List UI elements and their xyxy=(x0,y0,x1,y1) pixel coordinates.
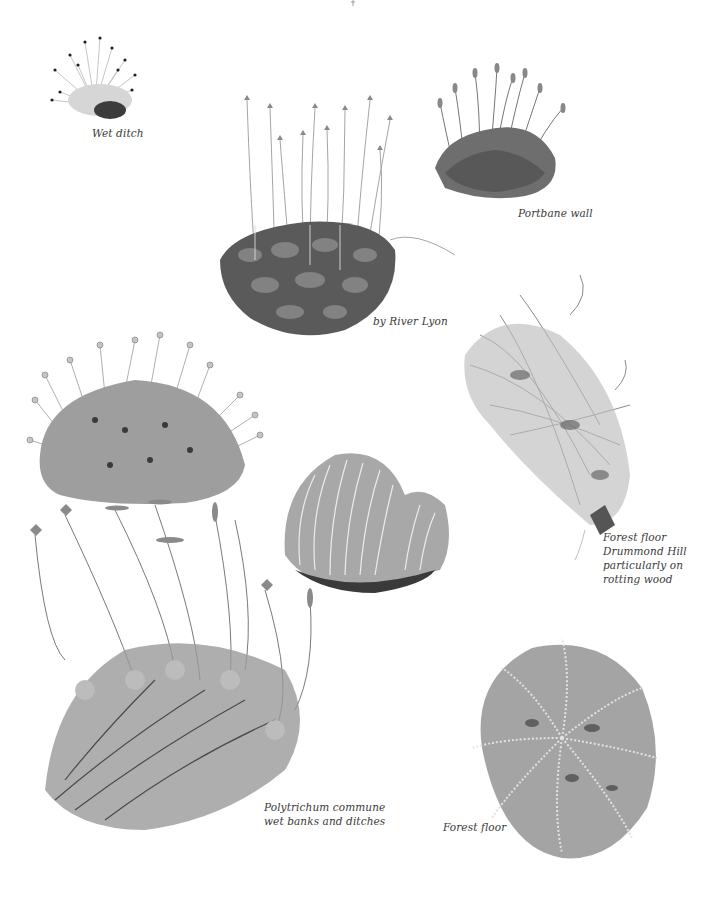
caption-forest-floor: Forest floor xyxy=(443,820,506,834)
caption-drummond-hill: Forest floor Drummond Hill particularly … xyxy=(603,530,687,586)
caption-portbane-wall: Portbane wall xyxy=(518,206,593,220)
caption-polytrichum-commune: Polytrichum commune wet banks and ditche… xyxy=(264,800,385,828)
illustration-page: Wet ditch Portbane wall xyxy=(0,0,718,901)
cushion-moss-capsules-illustration xyxy=(25,325,270,505)
caption-river-lyon: by River Lyon xyxy=(373,314,448,328)
river-lyon-moss-illustration xyxy=(215,90,465,345)
caption-wet-ditch: Wet ditch xyxy=(92,126,144,140)
drummond-hill-moss-illustration xyxy=(450,275,645,565)
page-mark-icon xyxy=(350,0,356,8)
polytrichum-commune-illustration xyxy=(25,490,325,835)
wet-ditch-moss-illustration xyxy=(40,30,150,125)
